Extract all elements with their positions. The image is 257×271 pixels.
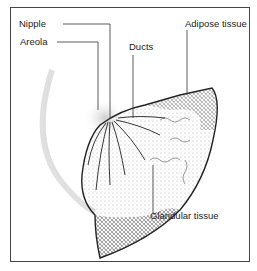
label-ducts: Ducts: [129, 42, 153, 52]
label-areola: Areola: [20, 37, 47, 47]
label-nipple: Nipple: [19, 19, 46, 29]
label-adipose-tissue: Adipose tissue: [185, 19, 247, 29]
label-glandular-tissue: Glandular tissue: [150, 211, 219, 221]
